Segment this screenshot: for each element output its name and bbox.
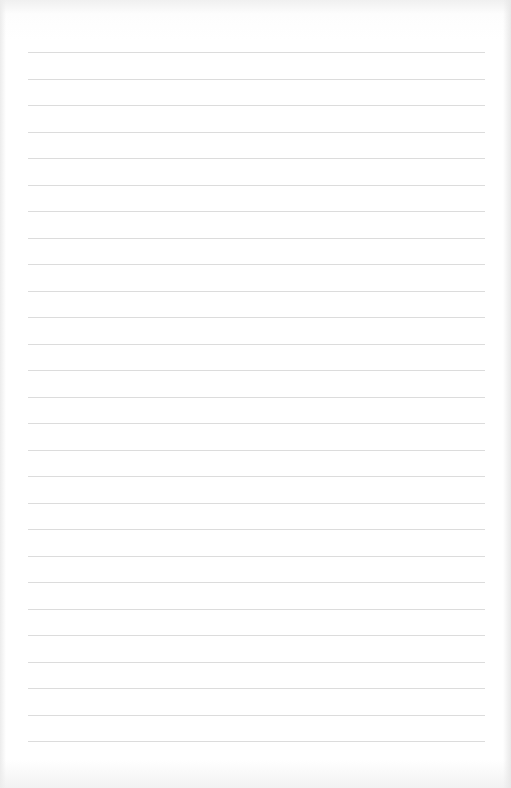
ruled-line bbox=[28, 238, 485, 239]
ruled-line bbox=[28, 529, 485, 530]
ruled-line bbox=[28, 185, 485, 186]
ruled-line bbox=[28, 688, 485, 689]
ruled-line bbox=[28, 741, 485, 742]
ruled-line bbox=[28, 211, 485, 212]
page-right-edge-shadow bbox=[503, 0, 511, 788]
ruled-line bbox=[28, 715, 485, 716]
ruled-line bbox=[28, 556, 485, 557]
ruled-line bbox=[28, 635, 485, 636]
ruled-line bbox=[28, 662, 485, 663]
ruled-line bbox=[28, 397, 485, 398]
ruled-line bbox=[28, 317, 485, 318]
ruled-line bbox=[28, 344, 485, 345]
ruled-line bbox=[28, 79, 485, 80]
ruled-line bbox=[28, 582, 485, 583]
ruled-line bbox=[28, 105, 485, 106]
ruled-line bbox=[28, 132, 485, 133]
ruled-line bbox=[28, 423, 485, 424]
ruled-line bbox=[28, 503, 485, 504]
ruled-lines bbox=[28, 0, 485, 788]
ruled-line bbox=[28, 52, 485, 53]
ruled-line bbox=[28, 264, 485, 265]
ruled-line bbox=[28, 609, 485, 610]
page-left-edge-shadow bbox=[0, 0, 6, 788]
ruled-line bbox=[28, 476, 485, 477]
ruled-line bbox=[28, 370, 485, 371]
ruled-line bbox=[28, 450, 485, 451]
ruled-line bbox=[28, 158, 485, 159]
lined-paper-page bbox=[0, 0, 511, 788]
ruled-line bbox=[28, 291, 485, 292]
